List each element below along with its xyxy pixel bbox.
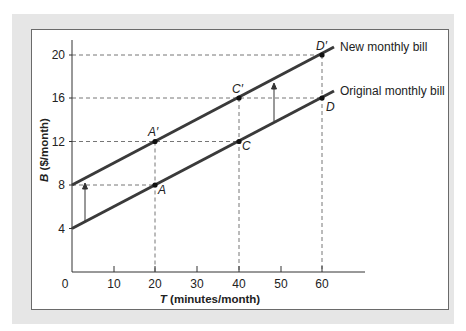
x-tick-label: 0 bbox=[62, 277, 69, 291]
x-axis-title: T (minutes/month) bbox=[160, 293, 260, 305]
y-tick-label: 16 bbox=[52, 91, 66, 105]
x-tick-label: 20 bbox=[148, 277, 162, 291]
new-monthly-bill-line bbox=[72, 47, 334, 185]
label-D: D bbox=[326, 100, 335, 114]
axes bbox=[69, 40, 365, 272]
chart-svg: A A′ C C′ D D′ New monthly bill Original… bbox=[0, 0, 466, 331]
point-A bbox=[152, 182, 157, 187]
original-monthly-bill-line bbox=[72, 91, 334, 229]
arrowhead-icon bbox=[272, 83, 277, 89]
y-tick-label: 4 bbox=[58, 222, 65, 236]
y-tick-label: 20 bbox=[52, 48, 66, 62]
x-tick-label: 40 bbox=[232, 277, 246, 291]
x-axis-unit: (minutes/month) bbox=[167, 293, 260, 305]
x-tick-label: 30 bbox=[190, 277, 204, 291]
label-A-prime: A′ bbox=[147, 125, 159, 139]
label-A: A bbox=[157, 183, 166, 197]
point-A-prime bbox=[152, 139, 157, 144]
legend-new-monthly-bill: New monthly bill bbox=[340, 40, 427, 54]
x-tick-label: 60 bbox=[315, 277, 329, 291]
data-points bbox=[152, 52, 324, 187]
y-tick-label: 8 bbox=[58, 178, 65, 192]
y-axis-unit: ($/month) bbox=[38, 118, 50, 174]
point-C bbox=[236, 139, 241, 144]
x-tick-label: 10 bbox=[107, 277, 121, 291]
point-C-prime bbox=[236, 95, 241, 100]
point-D-prime bbox=[319, 52, 324, 57]
y-axis-var: B bbox=[38, 174, 50, 182]
label-C-prime: C′ bbox=[232, 82, 244, 96]
arrowhead-icon bbox=[83, 183, 88, 189]
y-tick-label: 12 bbox=[52, 135, 66, 149]
point-D bbox=[319, 95, 324, 100]
y-axis-title: B ($/month) bbox=[38, 118, 50, 182]
legend-original-monthly-bill: Original monthly bill bbox=[340, 84, 445, 98]
x-tick-label: 50 bbox=[274, 277, 288, 291]
label-C: C bbox=[242, 139, 251, 153]
label-D-prime: D′ bbox=[316, 39, 328, 53]
